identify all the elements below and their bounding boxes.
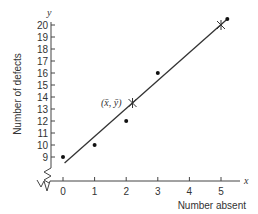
x-axis-break bbox=[37, 180, 53, 191]
data-point bbox=[225, 17, 229, 21]
data-points bbox=[61, 17, 229, 159]
asterisk-marker bbox=[129, 98, 137, 108]
x-tick-label: 3 bbox=[155, 186, 161, 197]
x-tick-label: 5 bbox=[218, 186, 224, 197]
y-tick-label: 20 bbox=[37, 20, 49, 31]
y-tick-label: 9 bbox=[42, 152, 48, 163]
x-tick-label: 1 bbox=[92, 186, 98, 197]
asterisk-marker bbox=[217, 20, 225, 30]
y-tick-label: 15 bbox=[37, 80, 49, 91]
y-tick-label: 13 bbox=[37, 104, 49, 115]
regression-line bbox=[65, 19, 228, 163]
y-ticks: 91011121314151617181920 bbox=[37, 20, 55, 163]
x-tick-label: 4 bbox=[187, 186, 193, 197]
data-point bbox=[124, 119, 128, 123]
regression-line-path bbox=[65, 19, 228, 163]
y-tick-label: 10 bbox=[37, 140, 49, 151]
data-point bbox=[93, 143, 97, 147]
y-tick-label: 19 bbox=[37, 32, 49, 43]
y-tick-label: 12 bbox=[37, 116, 49, 127]
x-tick-label: 0 bbox=[60, 186, 66, 197]
y-tick-label: 14 bbox=[37, 92, 49, 103]
chart-canvas: x y 91011121314151617181920 012345 Numbe… bbox=[0, 0, 258, 214]
data-point bbox=[156, 71, 160, 75]
x-tick-label: 2 bbox=[123, 186, 129, 197]
y-tick-label: 16 bbox=[37, 68, 49, 79]
mean-annotation: (x̄, ȳ) bbox=[101, 97, 122, 109]
x-axis-var: x bbox=[243, 175, 249, 186]
x-ticks: 012345 bbox=[60, 177, 224, 197]
data-point bbox=[61, 155, 65, 159]
x-axis-title: Number absent bbox=[178, 200, 247, 211]
y-tick-label: 18 bbox=[37, 44, 49, 55]
y-axis-title: Number of defects bbox=[12, 53, 23, 135]
y-tick-label: 11 bbox=[38, 128, 49, 139]
y-axis-var: y bbox=[46, 7, 52, 18]
axes: x y bbox=[37, 7, 249, 191]
y-tick-label: 17 bbox=[37, 56, 49, 67]
